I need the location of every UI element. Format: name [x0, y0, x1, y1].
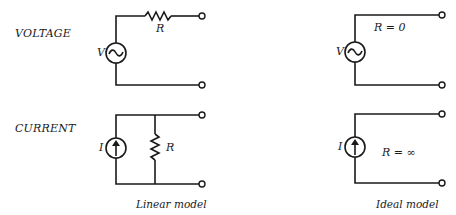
- wire: [355, 62, 439, 85]
- linear-current-circuit: [106, 112, 205, 187]
- infinite-resistance-label: R = ∞: [382, 147, 416, 158]
- voltage-source-symbol: V: [97, 47, 105, 58]
- wire: [116, 16, 145, 43]
- current-source-symbol: I: [99, 142, 103, 153]
- wire: [355, 114, 439, 137]
- series-resistor-icon: [145, 12, 171, 20]
- parallel-resistor-symbol: R: [166, 142, 174, 153]
- ideal-model-caption: Ideal model: [376, 199, 439, 210]
- wire: [116, 63, 199, 85]
- output-terminal-icon: [439, 111, 445, 117]
- circuit-diagram: VOLTAGE CURRENT V R I R Linear model V R…: [0, 0, 456, 215]
- wire: [116, 158, 199, 184]
- output-terminal-icon: [199, 112, 205, 118]
- output-terminal-icon: [439, 180, 445, 186]
- row-label-current: CURRENT: [15, 123, 76, 134]
- output-terminal-icon: [199, 82, 205, 88]
- output-terminal-icon: [199, 181, 205, 187]
- current-source-symbol: I: [338, 141, 342, 152]
- output-terminal-icon: [439, 82, 445, 88]
- series-resistor-symbol: R: [156, 23, 164, 34]
- row-label-voltage: VOLTAGE: [15, 28, 71, 39]
- output-terminal-icon: [439, 12, 445, 18]
- wire: [116, 115, 199, 138]
- parallel-resistor-icon: [151, 134, 159, 160]
- output-terminal-icon: [199, 13, 205, 19]
- zero-resistance-label: R = 0: [374, 22, 406, 33]
- voltage-source-symbol: V: [336, 46, 344, 57]
- linear-model-caption: Linear model: [136, 199, 207, 210]
- wire: [355, 157, 439, 183]
